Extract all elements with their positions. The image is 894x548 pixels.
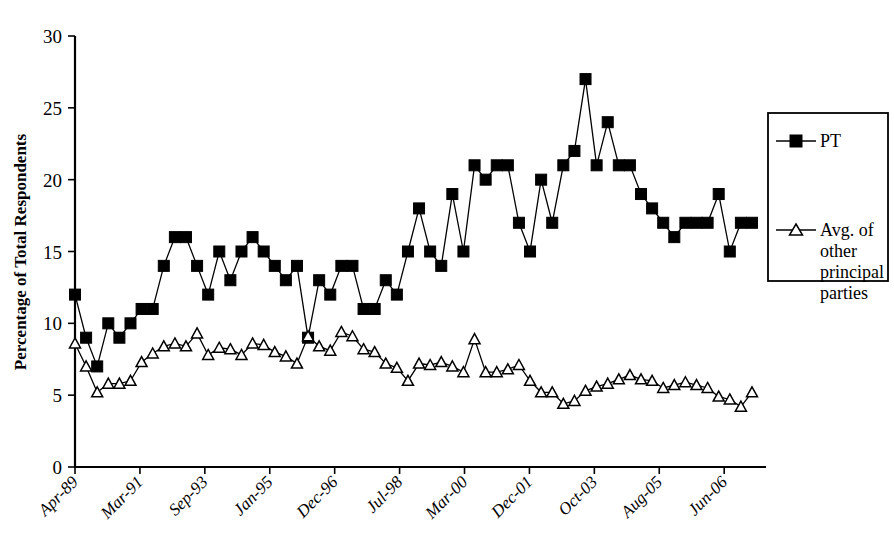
data-point-marker [291, 358, 302, 368]
y-axis: 051015202530 [43, 26, 75, 478]
x-axis-tick-label: Dec-01 [487, 472, 537, 522]
y-axis-tick-label: 10 [43, 313, 62, 334]
data-point-marker [125, 318, 136, 329]
x-axis-tick-label: Mar-91 [96, 472, 147, 523]
data-point-marker [591, 160, 602, 171]
x-axis-tick-label: Sep-93 [165, 472, 212, 519]
data-point-marker [469, 160, 480, 171]
data-point-marker [369, 303, 380, 314]
data-series-group [70, 74, 758, 412]
data-point-marker [458, 367, 469, 377]
data-point-marker [325, 289, 336, 300]
data-point-marker [70, 289, 81, 300]
data-point-marker [402, 246, 413, 257]
legend-label-text: other [820, 241, 857, 261]
chart-figure: 051015202530 Apr-89Mar-91Sep-93Jan-95Dec… [0, 0, 894, 548]
data-point-marker [169, 232, 180, 243]
data-point-marker [391, 362, 402, 372]
data-point-marker [436, 357, 447, 367]
data-point-marker [525, 375, 536, 385]
x-axis-tick-label: Jul-98 [362, 472, 406, 516]
data-point-marker [636, 374, 647, 384]
data-point-marker [225, 275, 236, 286]
y-axis-title: Percentage of Total Respondents [11, 133, 30, 370]
legend-label-text: principal [820, 262, 884, 282]
data-point-marker [158, 260, 169, 271]
data-point-marker [636, 189, 647, 200]
data-point-marker [647, 203, 658, 214]
data-point-marker [280, 275, 291, 286]
data-point-marker [247, 232, 258, 243]
data-point-marker [314, 275, 325, 286]
data-point-marker [713, 391, 724, 401]
y-axis-tick-label: 25 [43, 98, 62, 119]
data-point-marker [280, 351, 291, 361]
data-point-marker [702, 217, 713, 228]
data-point-marker [458, 246, 469, 257]
data-point-marker [114, 332, 125, 343]
data-point-marker [536, 174, 547, 185]
legend-label-text: Avg. of [820, 220, 874, 240]
series-polyline [75, 79, 752, 366]
data-point-marker [480, 174, 491, 185]
legend-marker-square [790, 135, 802, 147]
data-point-marker [747, 217, 758, 228]
data-point-marker [136, 303, 147, 314]
y-axis-title-text: Percentage of Total Respondents [11, 133, 30, 370]
data-point-marker [691, 217, 702, 228]
x-axis: Apr-89Mar-91Sep-93Jan-95Dec-96Jul-98Mar-… [34, 467, 766, 523]
data-point-marker [735, 217, 746, 228]
data-point-marker [613, 374, 624, 384]
data-point-marker [558, 160, 569, 171]
data-point-marker [580, 385, 591, 395]
data-point-marker [724, 246, 735, 257]
x-axis-tick-label: Apr-89 [34, 472, 82, 520]
data-point-marker [547, 217, 558, 228]
y-axis-tick-label: 0 [53, 457, 63, 478]
data-point-marker [380, 275, 391, 286]
data-point-marker [180, 232, 191, 243]
data-point-marker [713, 189, 724, 200]
data-point-marker [602, 117, 613, 128]
data-point-marker [92, 361, 103, 372]
data-point-marker [291, 260, 302, 271]
legend-label-text: parties [820, 283, 868, 303]
data-point-marker [192, 328, 203, 338]
data-point-marker [325, 345, 336, 355]
x-axis-tick-label: Jun-06 [684, 472, 731, 519]
data-point-marker [347, 331, 358, 341]
data-point-marker [136, 357, 147, 367]
data-point-marker [680, 377, 691, 387]
y-axis-tick-label: 5 [53, 385, 63, 406]
data-point-marker [658, 217, 669, 228]
data-point-marker [92, 387, 103, 397]
data-point-marker [569, 145, 580, 156]
data-point-marker [436, 260, 447, 271]
x-axis-tick-label: Jan-95 [230, 472, 277, 519]
data-point-marker [414, 358, 425, 368]
data-point-marker [580, 74, 591, 85]
data-point-marker [513, 360, 524, 370]
data-point-marker [447, 361, 458, 371]
data-point-marker [147, 348, 158, 358]
data-point-marker [103, 318, 114, 329]
legend-entry-pt[interactable]: PT [776, 131, 841, 151]
data-point-marker [258, 246, 269, 257]
x-axis-tick-label: Dec-96 [292, 472, 342, 522]
data-point-marker [624, 160, 635, 171]
percentage-of-total-respondents-line-chart: 051015202530 Apr-89Mar-91Sep-93Jan-95Dec… [0, 0, 894, 548]
data-point-marker [680, 217, 691, 228]
chart-legend: PTAvg. ofotherprincipalparties [768, 113, 888, 303]
x-axis-tick-label: Oct-03 [554, 472, 601, 519]
y-axis-tick-label: 30 [43, 26, 62, 47]
data-point-marker [469, 334, 480, 344]
data-point-marker [347, 260, 358, 271]
data-point-marker [214, 342, 225, 352]
data-point-marker [447, 189, 458, 200]
data-point-marker [70, 338, 81, 348]
data-point-marker [358, 303, 369, 314]
series-avg-other-parties [70, 326, 758, 411]
data-point-marker [169, 338, 180, 348]
data-point-marker [81, 332, 92, 343]
legend-entry-avg-other-parties[interactable]: Avg. ofotherprincipalparties [776, 220, 884, 303]
